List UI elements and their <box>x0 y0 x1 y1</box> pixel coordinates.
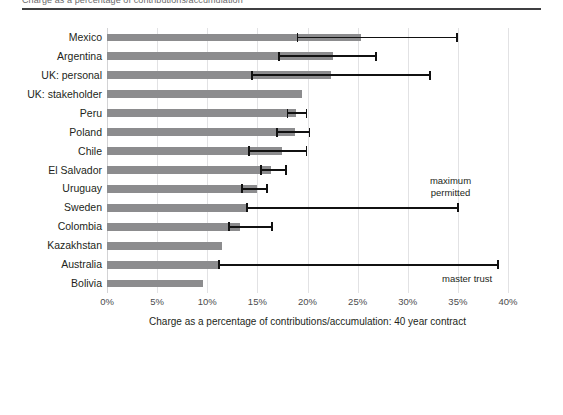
error-bar-line <box>242 188 267 190</box>
error-bar-cap-min <box>278 52 280 61</box>
chart-figure: Charge as a percentage of contributions/… <box>0 0 563 415</box>
error-bar-cap-max <box>309 128 311 137</box>
error-bar-cap-max <box>306 109 308 118</box>
ytick-label-uk-stakeholder: UK: stakeholder <box>2 85 102 104</box>
error-bar-line <box>249 150 306 152</box>
chart-row[interactable]: Kazakhstan <box>107 236 508 255</box>
error-bar-cap-min <box>246 203 248 212</box>
ytick-label-australia: Australia <box>2 255 102 274</box>
annotation-line: maximum <box>430 175 471 187</box>
chart-row[interactable]: Peru <box>107 104 508 123</box>
error-bar-cap-max <box>429 71 431 80</box>
error-bar-line <box>297 37 456 39</box>
error-bar-cap-min <box>228 222 230 231</box>
error-bar-cap-min <box>297 33 299 42</box>
error-bar-cap-max <box>456 33 458 42</box>
plot-area: 0%5%10%15%20%25%30%35%40%Charge as a per… <box>107 28 508 293</box>
mean-bar <box>107 223 240 231</box>
mean-bar <box>107 261 219 269</box>
ytick-label-uruguay: Uruguay <box>2 179 102 198</box>
mean-bar <box>107 109 296 117</box>
error-bar-cap-min <box>241 184 243 193</box>
gridline-40 <box>508 28 509 293</box>
ytick-label-argentina: Argentina <box>2 47 102 66</box>
error-bar-line <box>247 207 458 209</box>
error-bar-cap-min <box>260 165 262 174</box>
chart-row[interactable]: Colombia <box>107 217 508 236</box>
error-bar-line <box>261 169 286 171</box>
chart-row[interactable]: Mexico <box>107 28 508 47</box>
ytick-label-bolivia: Bolivia <box>2 274 102 293</box>
error-bar-cap-max <box>497 260 499 269</box>
xtick-label: 0% <box>100 296 114 307</box>
xtick-label: 15% <box>248 296 267 307</box>
chart-row[interactable]: UK: stakeholder <box>107 85 508 104</box>
error-bar-cap-min <box>218 260 220 269</box>
ytick-label-poland: Poland <box>2 123 102 142</box>
xtick-label: 25% <box>348 296 367 307</box>
xtick-label: 35% <box>448 296 467 307</box>
annotation-line: permitted <box>430 187 471 199</box>
error-bar-line <box>279 55 375 57</box>
chart-legend: maximum minimum Mean <box>0 348 563 410</box>
error-bar-cap-max <box>306 146 308 155</box>
xtick-label: 20% <box>298 296 317 307</box>
annotation-maximum-permitted: maximumpermitted <box>430 175 471 198</box>
mean-bar <box>107 242 222 250</box>
ytick-label-kazakhstan: Kazakhstan <box>2 236 102 255</box>
ytick-label-peru: Peru <box>2 104 102 123</box>
error-bar-line <box>287 112 306 114</box>
ytick-label-sweden: Sweden <box>2 198 102 217</box>
xtick-label: 30% <box>398 296 417 307</box>
error-bar-line <box>219 264 498 266</box>
mean-bar <box>107 185 257 193</box>
xtick-label: 5% <box>150 296 164 307</box>
error-bar-cap-min <box>276 128 278 137</box>
ytick-label-chile: Chile <box>2 142 102 161</box>
annotation-master-trust: master trust <box>442 273 492 285</box>
ytick-label-uk-personal: UK: personal <box>2 66 102 85</box>
error-bar-cap-max <box>285 165 287 174</box>
xtick-label: 40% <box>498 296 517 307</box>
mean-bar <box>107 128 295 136</box>
xtick-label: 10% <box>198 296 217 307</box>
error-bar-cap-max <box>375 52 377 61</box>
error-bar-cap-max <box>457 203 459 212</box>
error-bar-line <box>229 226 272 228</box>
clipped-figure-title: Charge as a percentage of contributions/… <box>22 0 541 5</box>
error-bar-line <box>252 74 429 76</box>
chart-row[interactable]: Sweden <box>107 198 508 217</box>
ytick-label-el-salvador: El Salvador <box>2 161 102 180</box>
error-bar-line <box>277 131 309 133</box>
error-bar-cap-min <box>287 109 289 118</box>
chart-row[interactable]: Australia <box>107 255 508 274</box>
chart-row[interactable]: Chile <box>107 142 508 161</box>
chart-row[interactable]: UK: personal <box>107 66 508 85</box>
mean-bar <box>107 166 271 174</box>
ytick-label-mexico: Mexico <box>2 28 102 47</box>
error-bar-cap-max <box>266 184 268 193</box>
error-bar-cap-min <box>248 146 250 155</box>
xaxis-title: Charge as a percentage of contributions/… <box>107 316 508 327</box>
top-rule-divider <box>22 8 541 10</box>
ytick-label-colombia: Colombia <box>2 217 102 236</box>
mean-bar <box>107 280 203 288</box>
chart-row[interactable]: Argentina <box>107 47 508 66</box>
error-bar-cap-max <box>271 222 273 231</box>
chart-row[interactable]: Poland <box>107 123 508 142</box>
mean-bar <box>107 90 302 98</box>
mean-bar <box>107 204 247 212</box>
error-bar-cap-min <box>251 71 253 80</box>
